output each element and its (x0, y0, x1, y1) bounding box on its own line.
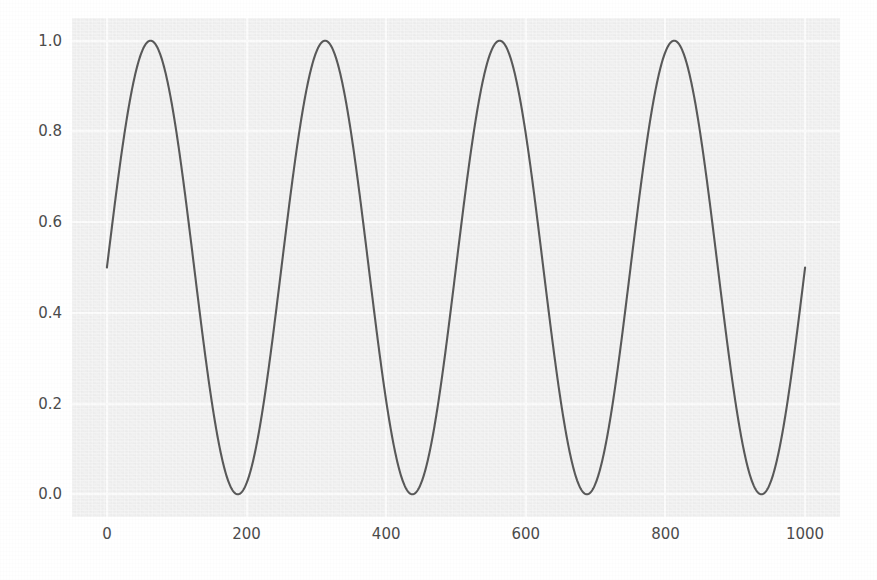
plot-area (72, 18, 840, 517)
x-tick-label: 1000 (786, 527, 824, 542)
y-tick-label: 0.6 (38, 215, 62, 230)
y-tick-label: 1.0 (38, 33, 62, 48)
x-tick-label: 0 (102, 527, 112, 542)
y-tick-label: 0.4 (38, 305, 62, 320)
y-tick-label: 0.2 (38, 396, 62, 411)
x-tick-label: 400 (372, 527, 401, 542)
chart-figure: 0.00.20.40.60.81.0 02004006008001000 (0, 0, 877, 580)
sine-curve-path (107, 41, 805, 495)
x-tick-label: 600 (511, 527, 540, 542)
x-tick-label: 200 (232, 527, 261, 542)
y-tick-label: 0.8 (38, 124, 62, 139)
y-tick-label: 0.0 (38, 487, 62, 502)
sine-curve (72, 18, 840, 517)
x-tick-label: 800 (651, 527, 680, 542)
